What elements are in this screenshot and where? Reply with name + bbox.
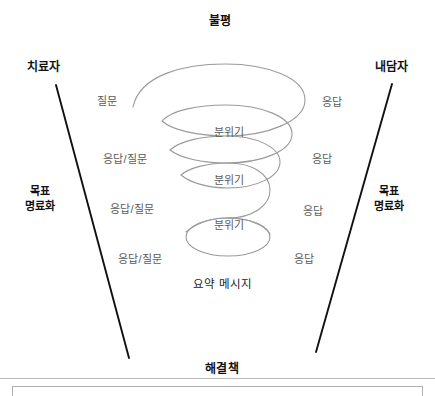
client-goal-label: 목표 명료화 <box>374 184 405 214</box>
mood-label-0: 분위기 <box>214 126 245 140</box>
mood-label-1: 분위기 <box>214 174 245 188</box>
footer-divider <box>0 378 435 379</box>
therapist-goal-line1: 목표 <box>25 184 56 199</box>
diagram-bottom-title: 해결책 <box>205 362 239 377</box>
diagram-top-title: 불평 <box>209 14 231 29</box>
therapist-goal-label: 목표 명료화 <box>25 184 56 214</box>
therapist-funnel-line <box>56 85 129 358</box>
spiral-bottom-connector <box>228 163 270 218</box>
therapist-actor-label: 치료자 <box>27 60 61 75</box>
therapist-message-3: 응답/질문 <box>118 253 162 267</box>
client-message-1: 응답 <box>312 153 332 167</box>
therapist-message-0: 질문 <box>97 95 117 109</box>
client-message-3: 응답 <box>294 253 314 267</box>
therapist-message-1: 응답/질문 <box>103 153 147 167</box>
client-message-0: 응답 <box>322 96 342 110</box>
spiral-coil-path <box>133 64 305 163</box>
client-funnel-line <box>316 84 392 352</box>
mood-label-2: 분위기 <box>214 219 245 233</box>
client-goal-line2: 명료화 <box>374 199 405 214</box>
spiral-diagram: 불평 치료자 내담자 목표 명료화 목표 명료화 질문 응답/질문 응답/질문 … <box>0 0 435 396</box>
diagram-canvas <box>0 0 435 396</box>
client-message-2: 응답 <box>303 205 323 219</box>
therapist-goal-line2: 명료화 <box>25 199 56 214</box>
therapist-message-2: 응답/질문 <box>110 203 154 217</box>
footer-panel <box>12 386 423 396</box>
client-goal-line1: 목표 <box>374 184 405 199</box>
client-actor-label: 내담자 <box>375 60 409 75</box>
summary-message-label: 요약 메시지 <box>193 277 252 291</box>
